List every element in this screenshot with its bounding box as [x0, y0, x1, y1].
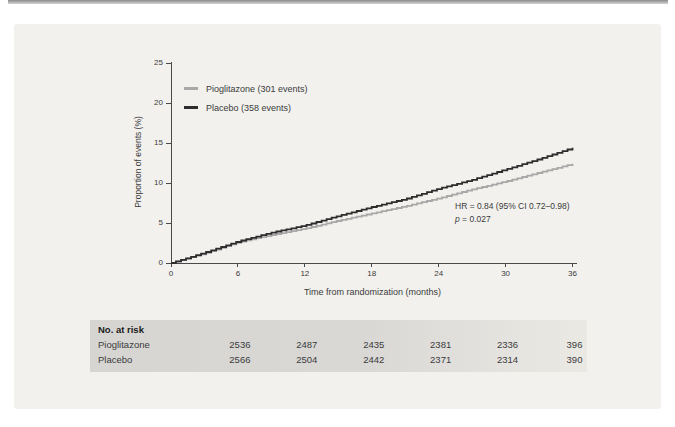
- p-value-text: p = 0.027: [455, 213, 570, 226]
- hr-annotation: HR = 0.84 (95% CI 0.72–0.98) p = 0.027: [455, 200, 570, 226]
- risk-value: 2314: [497, 354, 518, 365]
- legend-label: Placebo (358 events): [206, 103, 291, 113]
- y-tick-label: 10: [141, 178, 163, 188]
- figure-page: Proportion of events (%) 051015202506121…: [0, 0, 675, 427]
- y-tick-label: 15: [141, 138, 163, 148]
- risk-row-label: Placebo: [98, 354, 132, 365]
- x-tick-label: 6: [227, 269, 249, 279]
- risk-value: 2442: [363, 354, 384, 365]
- legend-item: Placebo (358 events): [184, 98, 308, 117]
- risk-value: 390: [567, 354, 583, 365]
- risk-row-label: Pioglitazone: [98, 339, 150, 350]
- x-tick-label: 0: [160, 269, 182, 279]
- risk-value: 2536: [229, 339, 250, 350]
- x-axis-title: Time from randomization (months): [171, 287, 574, 297]
- risk-value: 396: [567, 339, 583, 350]
- y-tick-label: 25: [141, 58, 163, 68]
- p-rest: = 0.027: [460, 214, 491, 224]
- legend-label: Pioglitazone (301 events): [206, 84, 308, 94]
- x-tick-label: 36: [562, 269, 584, 279]
- risk-value: 2381: [430, 339, 451, 350]
- x-tick-label: 30: [495, 269, 517, 279]
- risk-table-row: Pioglitazone25362487243523812336396: [90, 339, 587, 353]
- chart-legend: Pioglitazone (301 events)Placebo (358 ev…: [184, 79, 308, 117]
- risk-value: 2504: [296, 354, 317, 365]
- x-tick-label: 12: [294, 269, 316, 279]
- legend-line-swatch: [184, 106, 198, 109]
- risk-value: 2487: [296, 339, 317, 350]
- y-tick-label: 5: [141, 218, 163, 228]
- risk-value: 2371: [430, 354, 451, 365]
- hazard-ratio-text: HR = 0.84 (95% CI 0.72–0.98): [455, 200, 570, 213]
- risk-table-title: No. at risk: [98, 324, 144, 335]
- risk-value: 2435: [363, 339, 384, 350]
- y-axis-title: Proportion of events (%): [133, 116, 143, 208]
- legend-line-swatch: [184, 87, 198, 90]
- risk-value: 2336: [497, 339, 518, 350]
- y-tick-label: 20: [141, 98, 163, 108]
- x-tick-label: 18: [361, 269, 383, 279]
- number-at-risk-table: No. at risk Pioglitazone2536248724352381…: [90, 320, 587, 372]
- y-tick-label: 0: [141, 258, 163, 268]
- risk-value: 2566: [229, 354, 250, 365]
- legend-item: Pioglitazone (301 events): [184, 79, 308, 98]
- risk-table-row: Placebo25662504244223712314390: [90, 354, 587, 368]
- x-tick-label: 24: [428, 269, 450, 279]
